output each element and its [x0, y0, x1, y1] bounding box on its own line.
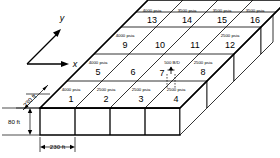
- cell-pressure-15: 3500 psia: [213, 8, 232, 13]
- cell-pressure-5: 4000 psia: [89, 60, 108, 65]
- cell-number-11: 11: [190, 40, 199, 50]
- cell-number-13: 13: [147, 15, 157, 25]
- diagram-canvas: 4000 psia 1 2500 psia 2 2500 psia 3 2500…: [0, 0, 280, 158]
- width-dimension: 230 ft: [40, 137, 75, 152]
- cell-pressure-9: 4000 psia: [116, 33, 135, 38]
- cell-number-14: 14: [182, 15, 192, 25]
- cell-pressure-8: 2500 psia: [194, 60, 213, 65]
- cell-number-16: 16: [250, 15, 260, 25]
- cell-number-3: 3: [138, 94, 143, 104]
- block-front-face: [40, 108, 180, 135]
- axis-indicator: x y: [27, 13, 78, 69]
- thickness-dimension-label: 80 ft: [8, 118, 20, 125]
- cell-pressure-1: 4000 psia: [62, 87, 81, 92]
- cell-number-1: 1: [68, 94, 73, 104]
- width-dimension-label: 230 ft: [50, 143, 66, 150]
- cell-pressure-14: 3500 psia: [178, 8, 197, 13]
- y-axis-arrow: [27, 29, 61, 64]
- cell-group-10: 10: [155, 40, 165, 50]
- cell-number-4: 4: [173, 94, 178, 104]
- cell-group-7: 7: [159, 68, 164, 78]
- cell-number-15: 15: [217, 15, 227, 25]
- cell-pressure-4: 2500 psia: [167, 87, 186, 92]
- cell-pressure-16: 3500 psia: [246, 8, 265, 13]
- x-axis-arrow: [27, 61, 69, 67]
- cell-group-11: 11: [190, 40, 199, 50]
- cell-number-8: 8: [200, 67, 205, 77]
- cell-number-7: 7: [159, 68, 164, 78]
- cell-number-5: 5: [95, 67, 100, 77]
- cell-number-10: 10: [155, 40, 165, 50]
- reservoir-grid-diagram: 4000 psia 1 2500 psia 2 2500 psia 3 2500…: [0, 0, 280, 158]
- cell-number-12: 12: [225, 40, 235, 50]
- cell-number-2: 2: [103, 94, 108, 104]
- cell-pressure-12: 2500 psia: [221, 33, 240, 38]
- cell-pressure-2: 2500 psia: [97, 87, 116, 92]
- x-axis-label: x: [72, 59, 78, 69]
- cell-pressure-13: 4000 psia: [143, 8, 162, 13]
- depth-dimension-label: 230 ft: [21, 92, 37, 108]
- cell-number-6: 6: [130, 67, 135, 77]
- cell-group-6: 6: [130, 67, 135, 77]
- well-rate-label: 500 B/D: [164, 60, 180, 65]
- y-axis-label: y: [59, 13, 65, 23]
- cell-pressure-3: 2500 psia: [132, 87, 151, 92]
- cell-number-9: 9: [122, 40, 127, 50]
- thickness-dimension: 80 ft: [2, 108, 40, 135]
